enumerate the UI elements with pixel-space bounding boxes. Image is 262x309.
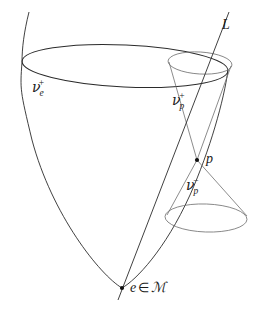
- label-line-L-text: L: [222, 17, 230, 32]
- lightcone-diagram: L νe+ νp+ νp− p e∈ℳ: [0, 0, 262, 309]
- label-point-p: p: [206, 152, 213, 166]
- label-future-cone-p: νp+: [172, 93, 191, 108]
- label-point-p-text: p: [206, 151, 213, 166]
- label-manifold-text: ℳ: [151, 279, 166, 295]
- element-of-icon: ∈: [136, 280, 151, 295]
- label-line-L: L: [222, 18, 230, 32]
- diagram-canvas: [0, 0, 262, 309]
- point-p-dot: [195, 158, 199, 162]
- label-future-cone-e: νe+: [32, 80, 50, 95]
- label-past-cone-p: νp−: [186, 178, 205, 193]
- nu-subscript: e: [40, 88, 44, 98]
- big-cone-rim-ellipse: [21, 40, 229, 91]
- big-cone-left-generator: [21, 62, 122, 288]
- nu-superscript: +: [179, 91, 184, 101]
- nu-superscript: −: [193, 176, 198, 186]
- label-apex-e-in-M: e∈ℳ: [130, 280, 166, 295]
- past-cone-p-rim-ellipse: [165, 203, 248, 234]
- point-e-dot: [120, 286, 124, 290]
- future-cone-p-left-generator: [169, 62, 197, 160]
- nu-subscript: p: [194, 186, 199, 196]
- nu-superscript: +: [39, 78, 44, 88]
- nu-subscript: p: [180, 101, 185, 111]
